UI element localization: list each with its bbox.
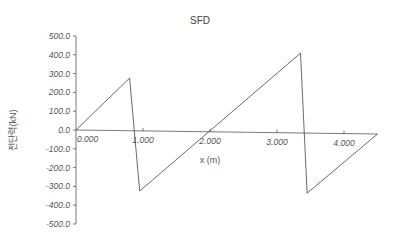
y-tick-label: 100.0 xyxy=(49,106,71,116)
y-tick-label: 400.0 xyxy=(49,50,71,60)
y-axis: 500.0400.0300.0200.0100.00.0-100.0-200.0… xyxy=(46,31,76,229)
y-tick-label: -400.0 xyxy=(46,200,70,210)
x-axis-label: x (m) xyxy=(200,155,221,165)
x-axis: 0.0001.0002.0003.0004.000 xyxy=(76,128,378,148)
sfd-chart: SFD 500.0400.0300.0200.0100.00.0-100.0-2… xyxy=(0,0,396,239)
y-tick-label: -200.0 xyxy=(46,163,70,173)
y-tick-label: 200.0 xyxy=(48,87,71,97)
y-tick-label: -500.0 xyxy=(46,219,70,229)
y-tick-label: 500.0 xyxy=(49,31,71,41)
x-tick-label: 4.000 xyxy=(333,138,355,148)
chart-title: SFD xyxy=(190,15,210,26)
y-tick-label: 300.0 xyxy=(49,69,71,79)
x-tick-label: 3.000 xyxy=(266,137,288,147)
y-tick-label: -300.0 xyxy=(46,181,70,191)
y-tick-label: -100.0 xyxy=(46,144,70,154)
shear-force-line xyxy=(76,53,378,193)
y-axis-label: 전단력(kN) xyxy=(7,110,18,151)
x-tick-label: 0.000 xyxy=(77,134,99,144)
y-tick-label: 0.0 xyxy=(58,125,70,135)
